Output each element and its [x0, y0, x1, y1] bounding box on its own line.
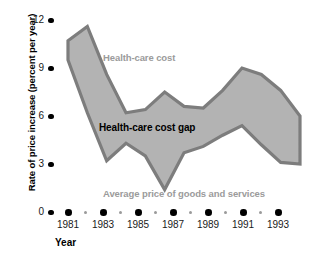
x-tick-label-1991: 1991	[226, 219, 260, 230]
x-tick-dot-1989	[205, 209, 212, 216]
x-tick-label-1983: 1983	[86, 219, 120, 230]
x-tick-dot-1984	[119, 211, 122, 214]
x-tick-dot-1982	[84, 211, 87, 214]
y-tick-label-6: 6	[28, 110, 44, 121]
x-tick-dot-1987	[170, 209, 177, 216]
x-axis-title: Year	[55, 237, 76, 248]
y-tick-dot-0	[48, 210, 54, 216]
y-tick-dot-9	[48, 66, 54, 72]
y-tick-label-9: 9	[28, 62, 44, 73]
health-care-cost-gap-band	[68, 26, 300, 189]
y-tick-dot-6	[48, 114, 54, 120]
y-tick-label-0: 0	[28, 206, 44, 217]
x-tick-dot-1981	[65, 209, 72, 216]
y-tick-dot-12	[48, 18, 54, 24]
series-label-health-care-cost-gap: Health-care cost gap	[99, 122, 195, 133]
y-tick-label-3: 3	[28, 158, 44, 169]
series-label-average-price: Average price of goods and services	[103, 188, 265, 199]
chart-container: Rate of price increase (percent per year…	[0, 0, 317, 264]
x-tick-label-1993: 1993	[261, 219, 295, 230]
x-tick-label-1981: 1981	[51, 219, 85, 230]
x-tick-dot-1985	[135, 209, 142, 216]
x-tick-dot-1988	[189, 211, 192, 214]
x-tick-label-1985: 1985	[121, 219, 155, 230]
x-tick-dot-1991	[240, 209, 247, 216]
x-tick-dot-1992	[259, 211, 262, 214]
series-label-health-care-cost: Health-care cost	[103, 52, 175, 63]
y-tick-dot-3	[48, 162, 54, 168]
x-tick-dot-1993	[275, 209, 282, 216]
y-tick-label-12: 12	[28, 14, 44, 25]
x-tick-dot-1990	[224, 211, 227, 214]
x-tick-label-1987: 1987	[156, 219, 190, 230]
x-tick-dot-1986	[154, 211, 157, 214]
x-tick-label-1989: 1989	[191, 219, 225, 230]
x-tick-dot-1983	[100, 209, 107, 216]
